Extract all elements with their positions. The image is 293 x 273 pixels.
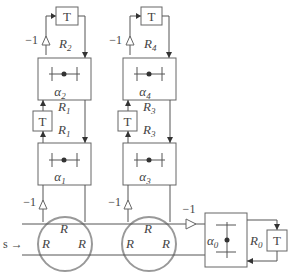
output-gain-label: −1 [183, 202, 196, 216]
arrow-icon [82, 52, 88, 58]
adaptor-dot-icon [147, 158, 152, 163]
junction-label: R [77, 236, 86, 251]
gain-triangle-icon [39, 200, 47, 209]
delay-label: T [273, 233, 281, 248]
column-2: T −1 R4 α4 T R3 R3 α3 −1 R R R [108, 7, 176, 271]
arrow-icon [125, 131, 131, 137]
port-resistance-label: R3 [142, 99, 156, 116]
wire-col1-top-down [78, 16, 85, 58]
delay-label: T [124, 114, 132, 129]
gain-label: −1 [108, 195, 121, 209]
column-1: T −1 R2 α2 T R1 R1 α1 −1 [23, 7, 92, 271]
junction-label: R [125, 236, 134, 251]
arrow-icon [82, 137, 88, 143]
gain-triangle-icon [124, 200, 132, 209]
port-resistance-label: R0 [249, 233, 263, 250]
terminal-adaptor: α0 T R0 [205, 213, 287, 267]
port-resistance-label: R1 [57, 122, 70, 139]
gain-label: −1 [109, 33, 122, 47]
junction-label: R [59, 221, 68, 236]
adaptor-dot-icon [147, 72, 152, 77]
wire-col1-top-up [46, 16, 56, 55]
arrow-icon [274, 224, 280, 230]
arrow-icon [247, 258, 253, 264]
input-signal-label: s → [3, 237, 23, 251]
delay-label: T [63, 9, 71, 24]
wire [162, 16, 169, 58]
delay-label: T [148, 9, 156, 24]
junction-label: R [41, 236, 50, 251]
junction-label: R [143, 221, 152, 236]
arrow-icon [51, 13, 56, 19]
diagram-canvas: T −1 R2 α2 T R1 R1 α1 −1 [0, 0, 293, 273]
wire [130, 16, 141, 55]
gain-label: −1 [23, 195, 36, 209]
adaptor-dot-icon [225, 238, 230, 243]
adaptor-dot-icon [62, 72, 67, 77]
wave-digital-filter-diagram: T −1 R2 α2 T R1 R1 α1 −1 [0, 0, 293, 273]
gain-triangle-icon [42, 36, 50, 45]
adaptor-dot-icon [62, 158, 67, 163]
wire [247, 220, 277, 230]
delay-label: T [39, 114, 47, 129]
gain-label: −1 [25, 33, 38, 47]
junction-label: R [161, 236, 170, 251]
port-resistance-label: R4 [143, 36, 157, 53]
arrow-icon [166, 52, 172, 58]
gain-triangle-right-icon [186, 219, 196, 229]
arrow-icon [125, 100, 131, 106]
arrow-icon [40, 100, 46, 106]
gain-triangle-icon [126, 36, 134, 45]
arrow-icon [136, 13, 141, 19]
arrow-icon [40, 131, 46, 137]
port-resistance-label: R2 [58, 36, 72, 53]
arrow-icon [167, 137, 173, 143]
port-resistance-label: R3 [142, 122, 156, 139]
port-resistance-label: R1 [57, 99, 70, 116]
